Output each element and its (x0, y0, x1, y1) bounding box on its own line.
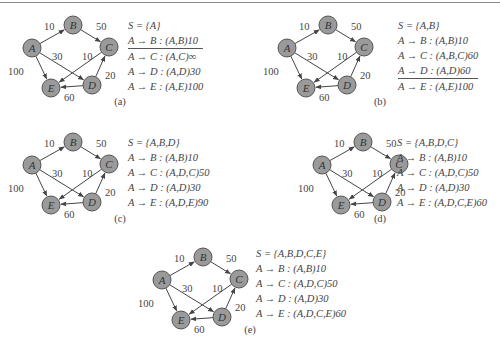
path-row: A → B : (A,B)10 (397, 150, 487, 165)
edge-A-E (326, 173, 337, 196)
set-label: S = {A,B} (398, 18, 478, 33)
path-row: A → E : (A,D,C,E)60 (256, 306, 346, 321)
path-row: A → B : (A,B)10 (256, 261, 346, 276)
edge-D-C (386, 173, 395, 194)
path-row: A → E : (A,D,E)90 (128, 195, 209, 210)
edge-weight: 100 (263, 66, 279, 77)
node-label: E (177, 314, 185, 326)
edge-weight: 30 (342, 168, 353, 179)
node-label: E (47, 199, 55, 211)
edge-D-E (191, 318, 213, 320)
path-info: S = {A,B} A → B : (A,B)10 A → C : (A,B,C… (398, 18, 478, 94)
panel-e: 105030100102060ABCDE S = {A,B,D,C,E} A →… (130, 232, 370, 342)
edge-weight: 60 (194, 324, 205, 335)
edge-weight: 10 (44, 138, 55, 149)
node-label: B (70, 136, 77, 148)
edge-weight: 10 (82, 168, 93, 179)
edge-D-E (61, 86, 83, 88)
caption: (a) (100, 96, 140, 107)
node-label: D (87, 79, 96, 91)
panel-b: 105030100102060ABCDE S = {A,B} A → B : (… (255, 0, 495, 110)
path-row: A → C : (A,B,C)60 (398, 48, 478, 63)
path-row: A → D : (A,D)30 (397, 180, 487, 195)
edge-weight: 10 (44, 21, 55, 32)
edge-weight: 50 (351, 21, 362, 32)
node-label: A (28, 42, 36, 54)
node-label: A (28, 159, 36, 171)
edge-D-C (96, 56, 105, 77)
edge-weight: 100 (138, 298, 154, 309)
panel-c: 105030100102060ABCDE S = {A,B,D} A → B :… (0, 117, 240, 227)
edge-weight: 20 (105, 187, 116, 198)
edge-weight: 30 (182, 283, 193, 294)
path-row: A → D : (A,D)60 (398, 63, 478, 79)
edge-D-E (351, 203, 373, 205)
caption: (d) (360, 213, 400, 224)
panel-d: 105030100102060ABCDE S = {A,B,D,C} A → B… (290, 117, 500, 227)
edge-weight: 10 (334, 138, 345, 149)
path-row: A → C : (A,D,C)50 (128, 165, 209, 180)
path-row: A → D : (A,D)30 (128, 180, 209, 195)
edge-weight: 10 (372, 168, 383, 179)
path-row: A → D : (A,D)30 (128, 64, 203, 79)
edge-D-C (351, 56, 360, 77)
path-row: A → B : (A,B)10 (128, 33, 203, 49)
edge-weight: 10 (174, 253, 185, 264)
node-label: A (318, 159, 326, 171)
path-row: A → B : (A,B)10 (398, 33, 478, 48)
edge-weight: 50 (96, 21, 107, 32)
path-row: A → E : (A,E)100 (128, 79, 203, 94)
path-row: A → E : (A,E)100 (398, 79, 478, 94)
set-label: S = {A} (128, 18, 203, 33)
node-label: B (325, 19, 332, 31)
edge-weight: 10 (337, 51, 348, 62)
edge-A-E (166, 288, 177, 311)
path-info: S = {A,B,D,C} A → B : (A,B)10 A → C : (A… (397, 135, 487, 210)
edge-weight: 100 (8, 183, 24, 194)
edge-weight: 10 (212, 283, 223, 294)
node-label: C (360, 41, 368, 53)
edge-weight: 60 (64, 92, 75, 103)
path-row: A → B : (A,B)10 (128, 150, 209, 165)
edge-weight: 30 (52, 168, 63, 179)
path-info: S = {A} A → B : (A,B)10 A → C : (A,C)∞ A… (128, 18, 203, 94)
edge-D-E (316, 86, 338, 88)
edge-weight: 10 (299, 21, 310, 32)
node-label: E (337, 199, 345, 211)
node-label: B (360, 136, 367, 148)
edge-weight: 60 (319, 92, 330, 103)
path-row: A → C : (A,D,C)50 (397, 165, 487, 180)
set-label: S = {A,B,D,C} (397, 135, 487, 150)
edge-D-C (226, 288, 235, 309)
edge-weight: 60 (64, 209, 75, 220)
caption: (c) (100, 213, 140, 224)
caption: (e) (230, 324, 270, 335)
edge-weight: 20 (105, 70, 116, 81)
caption: (b) (360, 96, 400, 107)
graph-diagram: 105030100102060ABCDE (0, 117, 140, 227)
set-label: S = {A,B,D,C,E} (256, 246, 346, 261)
edge-D-C (96, 173, 105, 194)
path-info: S = {A,B,D} A → B : (A,B)10 A → C : (A,D… (128, 135, 209, 210)
node-label: D (342, 79, 351, 91)
edge-weight: 20 (360, 70, 371, 81)
edge-weight: 20 (235, 302, 246, 313)
path-row: A → C : (A,C)∞ (128, 49, 203, 64)
panel-a: 105030100102060ABCDE S = {A} A → B : (A,… (0, 0, 240, 110)
path-row: A → D : (A,D)30 (256, 291, 346, 306)
node-label: D (377, 196, 386, 208)
node-label: D (217, 311, 226, 323)
edge-D-E (61, 203, 83, 205)
edge-A-E (36, 56, 47, 79)
node-label: B (70, 19, 77, 31)
node-label: A (283, 42, 291, 54)
path-row: A → C : (A,D,C)50 (256, 276, 346, 291)
edge-A-E (36, 173, 47, 196)
node-label: E (47, 82, 55, 94)
edge-weight: 50 (226, 253, 237, 264)
edge-weight: 100 (8, 66, 24, 77)
edge-weight: 100 (298, 183, 314, 194)
edge-A-E (291, 56, 302, 79)
node-label: E (302, 82, 310, 94)
node-label: A (158, 274, 166, 286)
